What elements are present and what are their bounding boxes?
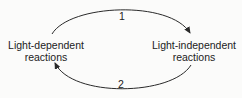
node-left-line1: Light-dependent	[4, 39, 88, 51]
arrow-label-1: 1	[116, 10, 128, 22]
arrow-label-2: 2	[115, 78, 127, 90]
node-light-independent-reactions: Light-independent reactions	[148, 39, 240, 63]
node-left-line2: reactions	[4, 51, 88, 63]
photosynthesis-cycle-diagram: Light-dependent reactions Light-independ…	[0, 0, 242, 98]
node-light-dependent-reactions: Light-dependent reactions	[4, 39, 88, 63]
node-right-line1: Light-independent	[148, 39, 240, 51]
node-right-line2: reactions	[148, 51, 240, 63]
